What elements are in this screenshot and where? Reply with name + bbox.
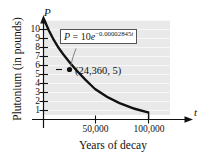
half-life-point-marker	[67, 67, 72, 72]
equation-exponent-variable: t	[131, 29, 133, 36]
x-tick-label-50000: 50,000	[73, 124, 118, 134]
y-axis-title: Plutonium (in pounds)	[11, 9, 23, 129]
y-axis-symbol: P	[44, 6, 51, 18]
equation-callout: P = 10e−0.00002845t	[60, 29, 137, 44]
equation-coefficient: 10	[81, 31, 91, 42]
y-axis	[40, 15, 47, 128]
plutonium-decay-figure: P t 10 9 8 7 6 5 4 3 2 1 50,000 100,000 …	[0, 0, 206, 162]
equation-exponent: −0.00002845t	[95, 29, 133, 36]
x-axis	[32, 116, 193, 123]
y-tick-label-1: 1	[26, 106, 40, 116]
equation-equals-sign: =	[70, 31, 81, 42]
half-life-point-label: (24,360, 5)	[75, 65, 121, 76]
equation-exponent-value: 0.00002845	[99, 29, 131, 36]
x-axis-title: Years of decay	[38, 139, 188, 151]
x-axis-symbol: t	[194, 106, 197, 118]
x-tick-label-100000: 100,000	[124, 124, 174, 134]
